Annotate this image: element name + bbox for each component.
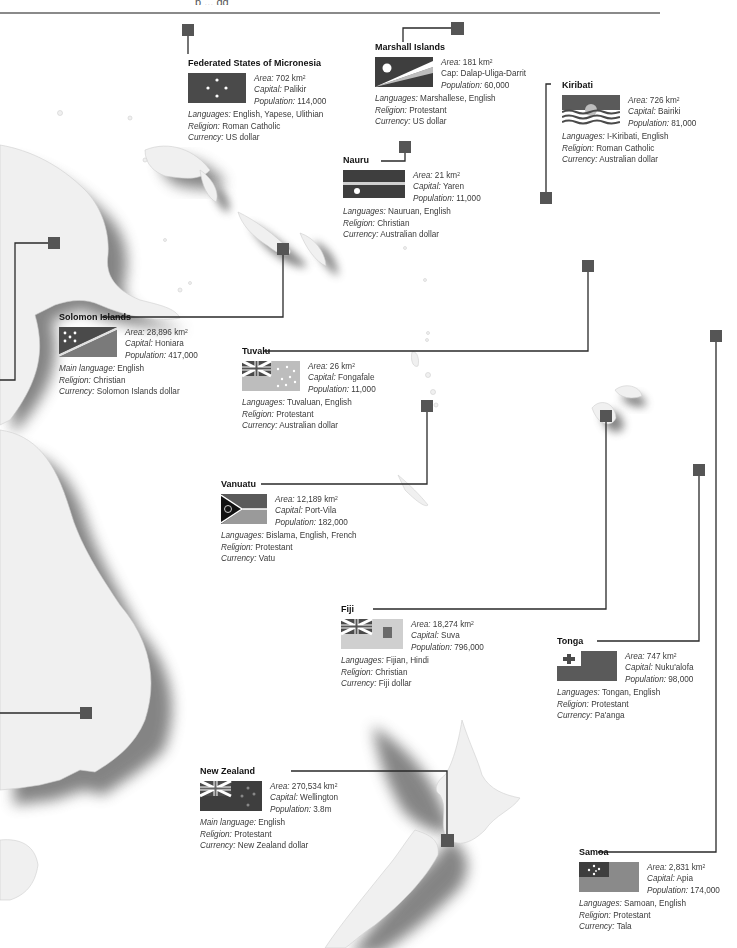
area-value: 2,831 bbox=[669, 863, 690, 872]
religion-value: Roman Catholic bbox=[596, 144, 654, 153]
capital-value: Apia bbox=[677, 874, 693, 883]
country-name: Vanuatu bbox=[221, 479, 357, 491]
religion-value: Christian bbox=[375, 668, 407, 677]
card-marshall-islands: Marshall Islands Area: 181 km2 Cap: Dala… bbox=[375, 42, 526, 128]
languages-value: Marshallese, English bbox=[420, 94, 496, 103]
area-value: 18,274 bbox=[433, 620, 458, 629]
marker-nauru bbox=[399, 141, 411, 153]
population-value: 417,000 bbox=[168, 351, 198, 360]
marker-tonga bbox=[693, 464, 705, 476]
currency-value: Pa'anga bbox=[595, 711, 625, 720]
population-value: 60,000 bbox=[484, 81, 509, 90]
population-value: 3.8m bbox=[313, 805, 331, 814]
religion-value: Protestant bbox=[234, 830, 271, 839]
religion-value: Christian bbox=[93, 376, 125, 385]
flag-new-zealand-icon bbox=[200, 781, 262, 811]
population-value: 11,000 bbox=[456, 194, 480, 203]
flag-samoa-icon bbox=[579, 862, 639, 892]
religion-value: Protestant bbox=[613, 911, 650, 920]
flag-kiribati-icon bbox=[562, 95, 620, 125]
population-value: 174,000 bbox=[690, 886, 720, 895]
currency-value: Vatu bbox=[259, 554, 275, 563]
flag-vanuatu-icon bbox=[221, 494, 267, 524]
leader-fiji bbox=[373, 415, 606, 609]
marker-solomon bbox=[277, 243, 289, 255]
population-value: 81,000 bbox=[671, 119, 696, 128]
main-language-value: English bbox=[258, 818, 285, 827]
currency-value: Australian dollar bbox=[279, 421, 338, 430]
population-value: 796,000 bbox=[454, 643, 484, 652]
currency-value: Tala bbox=[617, 922, 632, 931]
languages-value: Samoan, English bbox=[624, 899, 686, 908]
card-fiji: Fiji Area: 18,274 km2 Capital: Suva Popu… bbox=[341, 604, 484, 690]
marker-fiji bbox=[600, 410, 612, 422]
marker-marshall bbox=[451, 22, 464, 35]
languages-value: Bislama, English, French bbox=[266, 531, 357, 540]
currency-value: US dollar bbox=[413, 117, 447, 126]
area-value: 726 bbox=[650, 96, 664, 105]
main-language-value: English bbox=[117, 364, 144, 373]
population-value: 114,000 bbox=[297, 97, 326, 106]
marker-micronesia bbox=[182, 24, 194, 36]
flag-marshall-islands-icon bbox=[375, 57, 433, 87]
languages-value: Tuvaluan, English bbox=[287, 398, 352, 407]
card-tuvalu: Tuvalu Area: 26 km2 Capital: Fongafale P… bbox=[242, 346, 376, 432]
marker-png bbox=[48, 237, 60, 249]
area-value: 181 bbox=[463, 58, 477, 67]
card-kiribati: Kiribati Area: 726 km2 Capital: Bairiki … bbox=[562, 80, 696, 166]
marker-vanuatu bbox=[421, 400, 433, 412]
currency-value: New Zealand dollar bbox=[238, 841, 309, 850]
marker-samoa bbox=[710, 330, 722, 342]
currency-value: Australian dollar bbox=[599, 155, 658, 164]
leader-kiribati bbox=[546, 84, 551, 196]
languages-value: English, Yapese, Ulithian bbox=[233, 110, 323, 119]
card-new-zealand: New Zealand Area: 270,534 km2 Capital: W… bbox=[200, 766, 338, 852]
country-name: New Zealand bbox=[200, 766, 338, 778]
flag-fiji-icon bbox=[341, 619, 403, 649]
flag-tonga-icon bbox=[557, 651, 617, 681]
land-nz-north bbox=[436, 720, 520, 843]
land-fiji-vanua-levu bbox=[615, 386, 642, 398]
languages-value: Tongan, English bbox=[602, 688, 660, 697]
capital-value: Yaren bbox=[443, 182, 464, 191]
area-value: 12,189 bbox=[297, 495, 322, 504]
religion-value: Roman Catholic bbox=[222, 122, 280, 131]
country-name: Federated States of Micronesia bbox=[188, 58, 326, 70]
area-value: 28,896 bbox=[147, 328, 172, 337]
currency-value: Fiji dollar bbox=[379, 679, 412, 688]
country-name: Tonga bbox=[557, 636, 693, 648]
marker-tuvalu bbox=[582, 260, 594, 272]
card-solomon-islands: Solomon Islands Area: 28,896 km2 Capital… bbox=[59, 312, 198, 398]
capital-value: Nuku'alofa bbox=[655, 663, 693, 672]
area-value: 270,534 bbox=[292, 782, 322, 791]
land-new-caledonia bbox=[398, 475, 428, 506]
country-name: Nauru bbox=[343, 155, 481, 167]
country-name: Kiribati bbox=[562, 80, 696, 92]
religion-value: Protestant bbox=[276, 410, 313, 419]
capital-value: Bairiki bbox=[658, 107, 680, 116]
flag-nauru-icon bbox=[343, 170, 405, 198]
area-value: 26 bbox=[330, 362, 339, 371]
country-name: Solomon Islands bbox=[59, 312, 198, 324]
languages-value: Fijian, Hindi bbox=[386, 656, 429, 665]
population-value: 98,000 bbox=[668, 675, 693, 684]
capital-value: Dalap-Uliga-Darrit bbox=[461, 69, 527, 78]
card-tonga: Tonga Area: 747 km2 Capital: Nuku'alofa … bbox=[557, 636, 693, 722]
religion-value: Christian bbox=[377, 219, 409, 228]
card-samoa: Samoa Area: 2,831 km2 Capital: Apia Popu… bbox=[579, 847, 720, 933]
capital-value: Honiara bbox=[155, 339, 184, 348]
religion-value: Protestant bbox=[409, 106, 446, 115]
marker-australia bbox=[80, 707, 92, 719]
capital-value: Wellington bbox=[300, 793, 338, 802]
marker-new-zealand bbox=[441, 834, 454, 847]
population-value: 11,000 bbox=[351, 385, 375, 394]
population-value: 182,000 bbox=[318, 518, 348, 527]
leader-tonga bbox=[597, 470, 699, 641]
country-name: Fiji bbox=[341, 604, 484, 616]
area-value: 702 bbox=[276, 74, 290, 83]
capital-value: Port-Vila bbox=[305, 506, 336, 515]
flag-solomon-islands-icon bbox=[59, 327, 117, 357]
card-nauru: Nauru Area: 21 km2 Capital: Yaren Popula… bbox=[343, 155, 481, 241]
capital-value: Fongafale bbox=[338, 373, 374, 382]
country-name: Tuvalu bbox=[242, 346, 376, 358]
